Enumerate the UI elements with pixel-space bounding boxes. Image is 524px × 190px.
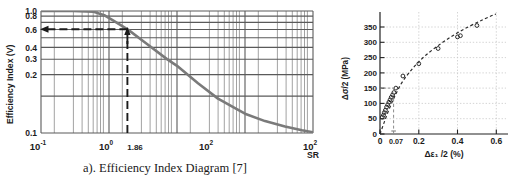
svg-text:0.2: 0.2 <box>25 70 37 80</box>
svg-text:0.4: 0.4 <box>25 43 37 53</box>
plot-area-background <box>380 12 506 134</box>
svg-text:0.6: 0.6 <box>25 25 37 35</box>
svg-text:0.8: 0.8 <box>25 11 37 21</box>
y-axis-ticklabels: 1.0 0.8 0.6 0.4 0.3 0.2 0.1 <box>25 6 37 138</box>
svg-text:0.1: 0.1 <box>25 128 37 138</box>
svg-text:0.6: 0.6 <box>490 136 502 146</box>
svg-text:100: 100 <box>364 99 378 108</box>
svg-text:1.86: 1.86 <box>127 143 143 152</box>
reduced-cyclic-svg: 0 50 100 150 200 250 300 350 Δσ/2 (MPa) … <box>336 0 524 162</box>
svg-text:0.3: 0.3 <box>25 54 37 64</box>
x-axis-title: Δε₁ /2 (%) <box>424 149 463 159</box>
svg-text:10-1: 10-1 <box>30 139 47 152</box>
svg-text:300: 300 <box>364 38 378 47</box>
svg-text:0.4: 0.4 <box>452 136 464 146</box>
svg-text:50: 50 <box>368 114 377 123</box>
svg-text:250: 250 <box>364 53 378 62</box>
svg-text:0: 0 <box>378 136 383 146</box>
efficiency-index-svg: 1.0 0.8 0.6 0.4 0.3 0.2 0.1 Efficiency I… <box>0 0 330 160</box>
panel-efficiency-index-diagram: 1.0 0.8 0.6 0.4 0.3 0.2 0.1 Efficiency I… <box>0 0 330 190</box>
figure-container: 1.0 0.8 0.6 0.4 0.3 0.2 0.1 Efficiency I… <box>0 0 524 190</box>
svg-text:150: 150 <box>364 84 378 93</box>
x-axis-ticklabels: 10-1 100 1.86 102 102 <box>30 139 318 152</box>
x-axis-title: SR <box>307 150 320 160</box>
svg-text:0.2: 0.2 <box>413 136 425 146</box>
readout-strain-label: 0.07 <box>389 137 403 146</box>
svg-text:200: 200 <box>364 69 378 78</box>
chart-efficiency-index: 1.0 0.8 0.6 0.4 0.3 0.2 0.1 Efficiency I… <box>0 0 330 160</box>
panel-reduced-cyclic-curve: 0 50 100 150 200 250 300 350 Δσ/2 (MPa) … <box>336 0 524 190</box>
y-axis-title: Δσ/2 (MPa) <box>341 57 350 100</box>
y-axis-ticklabels: 0 50 100 150 200 250 300 350 <box>364 23 378 139</box>
svg-text:102: 102 <box>199 139 214 152</box>
svg-text:350: 350 <box>364 23 378 32</box>
svg-text:100: 100 <box>99 139 114 152</box>
chart-reduced-cyclic: 0 50 100 150 200 250 300 350 Δσ/2 (MPa) … <box>336 0 524 162</box>
y-axis-title: Efficiency Index (V) <box>5 45 15 124</box>
panel-a-caption: a). Efficiency Index Diagram [7] <box>0 161 330 176</box>
